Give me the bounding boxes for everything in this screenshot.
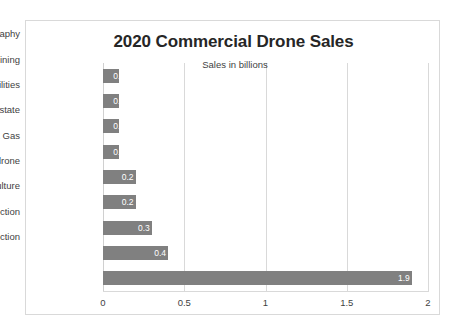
bar-construction[interactable]: [103, 271, 412, 285]
bar-value-label: 0.1: [103, 69, 125, 83]
bar-value-label: 0.1: [103, 94, 125, 108]
bar-value-label: 0.1: [103, 145, 125, 159]
category-axis: VideographyMiningUtilitiesRealestateOil …: [0, 21, 20, 249]
x-axis-line: [103, 291, 429, 292]
bar-row[interactable]: 0.1: [103, 119, 428, 133]
bar-value-label: 0.4: [144, 246, 166, 260]
bar-value-label: 0.2: [112, 195, 134, 209]
x-tick-0.5: 0.5: [178, 297, 191, 308]
bar-row[interactable]: 0.4: [103, 246, 428, 260]
bar-row[interactable]: 0.1: [103, 145, 428, 159]
x-axis-tick-labels: 00.511.52: [103, 297, 429, 313]
category-label-realestate: Realestate: [0, 104, 20, 115]
category-label-mining: Mining: [0, 54, 20, 65]
bar-value-label: 0.3: [128, 221, 150, 235]
x-tick-0: 0: [100, 297, 105, 308]
gridline-2: [428, 63, 429, 291]
category-label-oil-gas: Oil & Gas: [0, 130, 20, 141]
chart-frame: 2020 Commercial Drone Sales VideographyM…: [25, 20, 440, 315]
bar-row[interactable]: 0.2: [103, 170, 428, 184]
category-label-agriculture: Agriculture: [0, 180, 20, 191]
chart-annotation: Sales in billions: [202, 59, 267, 70]
bar-row[interactable]: 0.1: [103, 69, 428, 83]
category-label-inspection: Inspection: [0, 206, 20, 217]
bar-value-label: 1.9: [388, 271, 410, 285]
x-tick-1: 1: [263, 297, 268, 308]
x-tick-2: 2: [425, 297, 430, 308]
category-label-utilities: Utilities: [0, 79, 20, 90]
category-label-construction: Construction: [0, 231, 20, 242]
category-label-counter-drone: Counter drone: [0, 155, 20, 166]
x-tick-1.5: 1.5: [340, 297, 353, 308]
chart-title: 2020 Commercial Drone Sales: [26, 32, 441, 52]
bar-value-label: 0.1: [103, 119, 125, 133]
plot-area: 0.10.10.10.10.20.20.30.41.9 Sales in bil…: [103, 63, 428, 291]
bar-row[interactable]: 0.1: [103, 94, 428, 108]
bar-value-label: 0.2: [112, 170, 134, 184]
bar-row[interactable]: 0.3: [103, 221, 428, 235]
bar-row[interactable]: 0.2: [103, 195, 428, 209]
bar-row[interactable]: 1.9: [103, 271, 428, 285]
category-label-videography: Videography: [0, 28, 20, 39]
